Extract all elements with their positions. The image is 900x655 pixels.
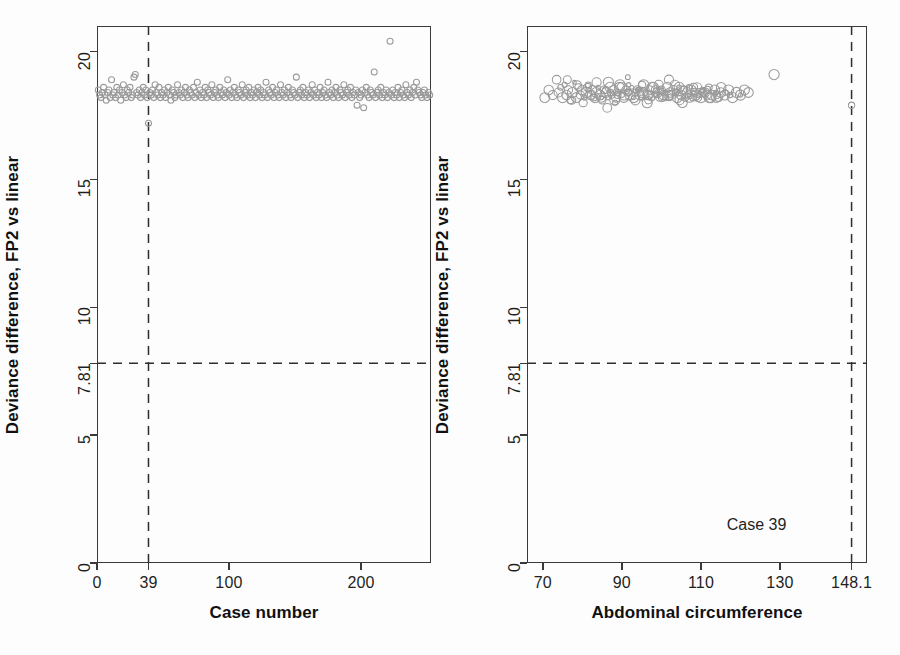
data-point xyxy=(769,69,779,79)
data-point xyxy=(361,105,367,111)
data-point xyxy=(209,82,215,88)
data-point xyxy=(120,82,126,88)
x-tick-mark xyxy=(851,563,852,570)
case-39-annotation: Case 39 xyxy=(727,516,787,534)
y-tick-label: 0 xyxy=(76,563,94,623)
data-point xyxy=(413,79,419,85)
data-point xyxy=(387,38,393,44)
x-tick-label: 148.1 xyxy=(831,574,872,592)
left-plot-canvas xyxy=(0,0,460,655)
x-tick-mark xyxy=(700,563,701,570)
data-point xyxy=(293,74,299,80)
data-point xyxy=(603,103,612,112)
right-x-axis-title: Abdominal circumference xyxy=(591,603,802,623)
data-point xyxy=(175,82,181,88)
data-point xyxy=(354,102,360,108)
data-point xyxy=(403,82,409,88)
x-tick-label: 70 xyxy=(534,574,552,592)
data-point xyxy=(263,79,269,85)
y-tick-label: 7.81 xyxy=(76,363,94,423)
x-tick-label: 130 xyxy=(766,574,793,592)
data-point xyxy=(109,77,115,83)
y-tick-label: 5 xyxy=(506,435,524,495)
x-tick-mark xyxy=(779,563,780,570)
x-tick-label: 90 xyxy=(613,574,631,592)
data-point xyxy=(194,79,200,85)
y-tick-label: 20 xyxy=(506,52,524,112)
y-tick-label: 10 xyxy=(76,307,94,367)
data-point xyxy=(558,84,564,90)
data-point xyxy=(225,77,231,83)
data-series-points xyxy=(540,69,855,112)
x-tick-mark xyxy=(542,563,543,570)
x-tick-mark xyxy=(96,563,97,570)
y-tick-label: 15 xyxy=(76,179,94,239)
x-tick-label: 100 xyxy=(215,574,242,592)
y-tick-label: 0 xyxy=(506,563,524,623)
x-tick-label: 0 xyxy=(92,574,101,592)
x-tick-mark xyxy=(621,563,622,570)
x-tick-label: 200 xyxy=(347,574,374,592)
data-point xyxy=(341,82,347,88)
x-tick-mark xyxy=(148,563,149,570)
y-tick-label: 15 xyxy=(506,179,524,239)
data-point xyxy=(278,82,284,88)
y-tick-label: 20 xyxy=(76,52,94,112)
x-tick-label: 39 xyxy=(139,574,157,592)
y-tick-label: 5 xyxy=(76,435,94,495)
data-point xyxy=(613,100,618,105)
data-point xyxy=(563,76,571,84)
left-x-axis-title: Case number xyxy=(210,603,319,623)
data-point xyxy=(552,75,561,84)
x-tick-mark xyxy=(228,563,229,570)
data-point xyxy=(371,69,377,75)
y-tick-label: 10 xyxy=(506,307,524,367)
data-point xyxy=(325,79,331,85)
x-tick-mark xyxy=(360,563,361,570)
x-tick-label: 110 xyxy=(688,574,714,592)
data-series-points xyxy=(95,38,432,126)
y-tick-label: 7.81 xyxy=(506,363,524,423)
data-point xyxy=(625,75,630,80)
data-point xyxy=(239,82,245,88)
panel-case-number: Deviance difference, FP2 vs linear 057.8… xyxy=(0,0,460,655)
panel-abdominal-circumference: Deviance difference, FP2 vs linear 057.8… xyxy=(440,0,900,655)
figure-container: Deviance difference, FP2 vs linear 057.8… xyxy=(0,0,900,655)
